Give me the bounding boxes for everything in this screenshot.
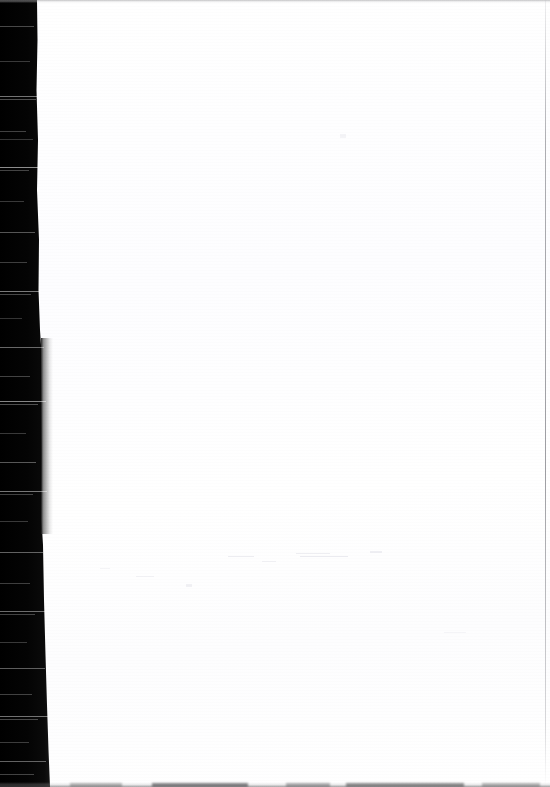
bottom-blotch [70,783,122,787]
scanner-gutter-band [0,0,550,787]
page-edge-shadow [41,338,53,534]
bottom-blotch [152,783,248,787]
bottom-edge-smudge [0,782,550,787]
right-scan-rule [545,0,546,787]
bottom-blotch [482,783,540,787]
bottom-blotch [286,783,330,787]
bottom-blotch [346,783,464,787]
scanned-page [0,0,550,787]
top-scan-rule [0,0,550,3]
